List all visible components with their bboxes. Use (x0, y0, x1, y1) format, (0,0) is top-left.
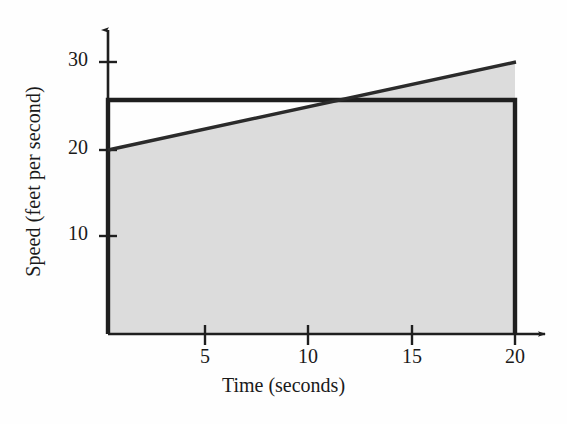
shaded-area-under-line (108, 62, 515, 334)
y-axis-title: Speed (feet per second) (22, 57, 45, 307)
speed-time-chart: 30 20 10 5 10 15 20 Speed (feet per seco… (0, 0, 567, 424)
y-tick-label-30: 30 (44, 48, 88, 71)
x-tick-label-20: 20 (495, 345, 535, 368)
y-tick-label-20: 20 (44, 136, 88, 159)
x-tick-label-5: 5 (185, 345, 225, 368)
x-axis-title: Time (seconds) (0, 374, 567, 397)
x-tick-label-15: 15 (392, 345, 432, 368)
y-tick-label-10: 10 (44, 222, 88, 245)
x-tick-label-10: 10 (288, 345, 328, 368)
